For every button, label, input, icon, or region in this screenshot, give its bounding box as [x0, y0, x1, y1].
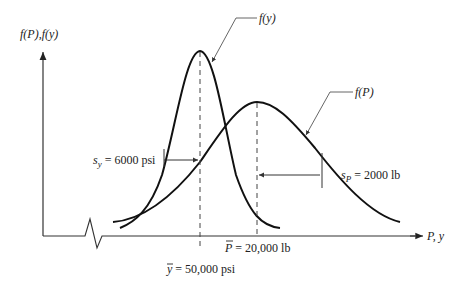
sP-dimension: [259, 153, 322, 188]
svg-text:y = 50,000 psi: y = 50,000 psi: [166, 262, 236, 276]
stress-strength-diagram: f(P),f(y) P, y f(y) f(P) sy = 6000 psi s…: [0, 0, 469, 285]
y-axis-label: f(P),f(y): [20, 27, 58, 41]
label-y-mean: y = 50,000 psi: [166, 262, 236, 276]
label-f-y: f(y): [259, 11, 276, 25]
label-sP: sP = 2000 lb: [341, 168, 400, 184]
svg-text:P = 20,000 lb: P = 20,000 lb: [224, 241, 290, 255]
label-f-P: f(P): [355, 85, 374, 99]
curve-f-y: [120, 51, 280, 228]
label-P-mean: P = 20,000 lb: [224, 241, 290, 255]
label-sy: sy = 6000 psi: [93, 153, 156, 169]
x-axis-label: P, y: [426, 229, 445, 243]
sy-dimension: [164, 149, 198, 167]
leader-f-P: [306, 92, 353, 135]
leader-f-y: [212, 18, 257, 62]
svg-text:sP = 2000 lb: sP = 2000 lb: [341, 168, 400, 184]
svg-text:sy = 6000 psi: sy = 6000 psi: [93, 153, 156, 169]
